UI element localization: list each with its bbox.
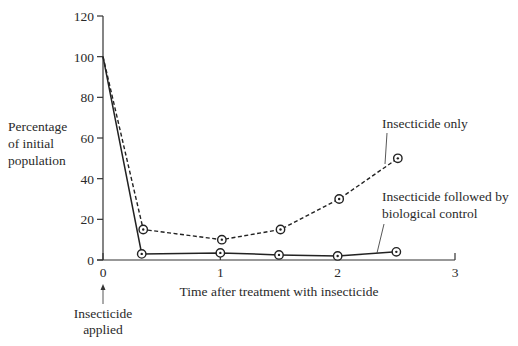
svg-text:biological control: biological control <box>382 206 478 221</box>
svg-text:Percentage: Percentage <box>8 119 67 134</box>
data-point-marker <box>275 251 283 259</box>
data-point-marker <box>394 154 402 162</box>
y-tick-label: 60 <box>81 131 95 146</box>
x-tick-label: 0 <box>100 265 107 280</box>
y-tick-label: 80 <box>81 90 95 105</box>
x-tick-label: 3 <box>452 265 459 280</box>
population-chart: Percentage of initial population 0204060… <box>0 0 518 346</box>
series-line <box>103 57 396 256</box>
y-tick-label: 100 <box>74 50 95 65</box>
x-tick-label: 2 <box>334 265 341 280</box>
arrowhead-icon <box>101 284 106 290</box>
svg-text:population: population <box>8 153 66 168</box>
data-point-marker <box>218 235 226 243</box>
series-0 <box>103 57 402 244</box>
svg-text:applied: applied <box>83 322 123 337</box>
series-label-biological-control: Insecticide followed by biological contr… <box>377 189 509 253</box>
y-tick-label: 120 <box>74 9 95 24</box>
data-point-marker <box>216 249 224 257</box>
svg-text:Insecticide followed by: Insecticide followed by <box>382 189 509 204</box>
data-point-marker <box>335 195 343 203</box>
y-axis-label: Percentage of initial population <box>8 119 67 168</box>
y-tick-label: 0 <box>87 253 94 268</box>
leader-line <box>377 224 384 253</box>
insecticide-applied-annotation: Insecticide applied <box>74 284 132 337</box>
data-point-marker <box>392 248 400 256</box>
data-point-marker <box>139 225 147 233</box>
svg-text:of initial: of initial <box>8 136 54 151</box>
leader-line <box>385 133 387 164</box>
data-point-marker <box>276 225 284 233</box>
series-line <box>103 57 398 240</box>
y-tick-label: 40 <box>81 172 95 187</box>
data-point-marker <box>333 252 341 260</box>
y-axis-ticks: 020406080100120 <box>74 9 103 268</box>
x-tick-label: 1 <box>217 265 224 280</box>
data-point-marker <box>138 250 146 258</box>
svg-text:Insecticide: Insecticide <box>74 306 132 321</box>
x-axis-label: Time after treatment with insecticide <box>180 284 379 299</box>
svg-text:Insecticide only: Insecticide only <box>382 116 468 131</box>
series-layer <box>103 57 402 260</box>
y-tick-label: 20 <box>81 212 95 227</box>
